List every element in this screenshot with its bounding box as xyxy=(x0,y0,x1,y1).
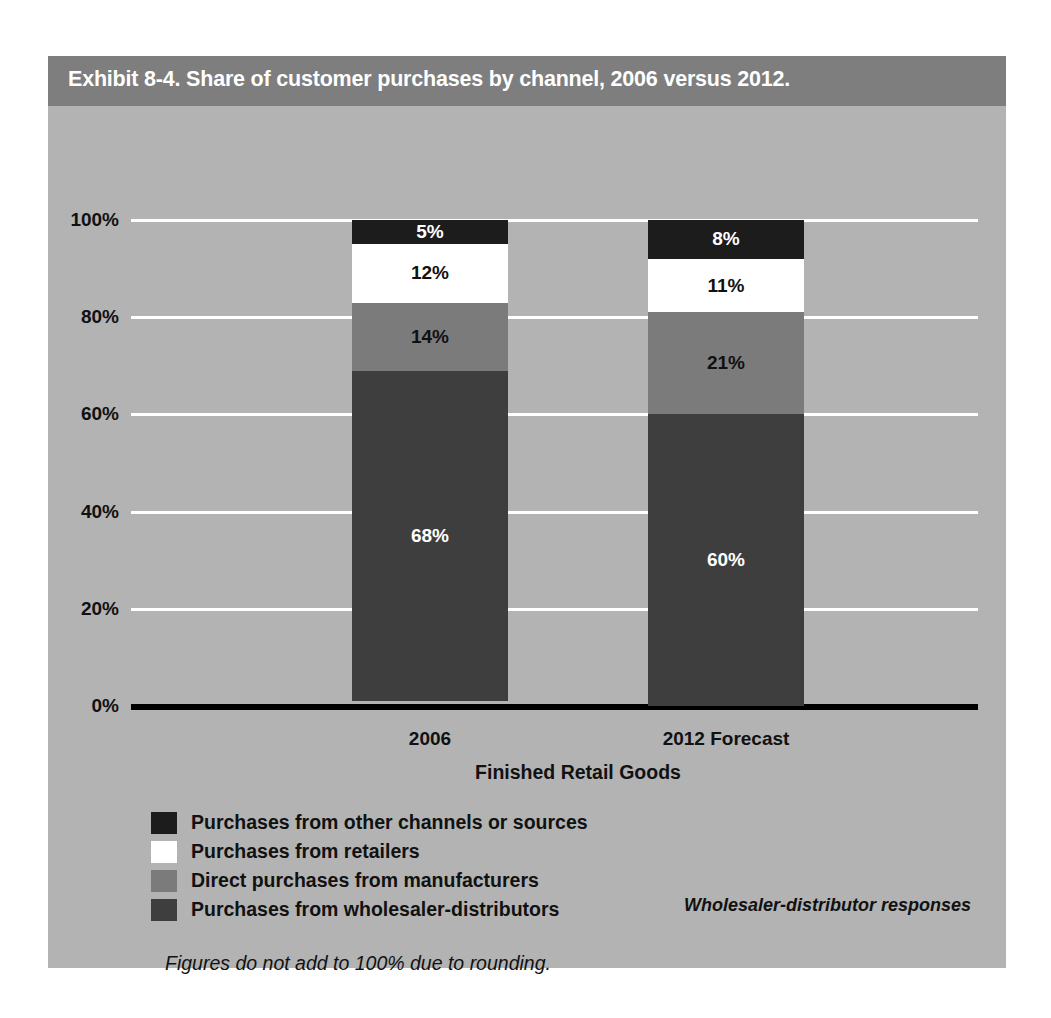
category-label: 2006 xyxy=(409,728,451,750)
legend-item[interactable]: Purchases from retailers xyxy=(151,837,971,866)
bar-segment[interactable]: 12% xyxy=(352,244,508,302)
x-axis-line xyxy=(131,704,978,710)
bar-segment-value-label: 12% xyxy=(411,262,449,284)
bar-segment[interactable]: 11% xyxy=(648,259,804,312)
y-axis-tick-label: 60% xyxy=(33,403,119,425)
legend-swatch xyxy=(151,899,177,921)
chart-legend: Purchases from other channels or sources… xyxy=(151,808,971,924)
source-note: Wholesaler-distributor responses xyxy=(684,895,971,916)
bar-segment[interactable]: 5% xyxy=(352,220,508,244)
footnote: Figures do not add to 100% due to roundi… xyxy=(165,952,551,975)
exhibit-title-bar: Exhibit 8-4. Share of customer purchases… xyxy=(48,56,1006,106)
legend-item[interactable]: Direct purchases from manufacturers xyxy=(151,866,971,895)
bar-segment-value-label: 8% xyxy=(712,228,739,250)
legend-swatch xyxy=(151,812,177,834)
bar-segment-value-label: 11% xyxy=(708,275,745,297)
exhibit-card: Exhibit 8-4. Share of customer purchases… xyxy=(48,56,1006,968)
page-root: Exhibit 8-4. Share of customer purchases… xyxy=(0,0,1051,1018)
bar-segment-value-label: 21% xyxy=(707,352,745,374)
bar-segment-value-label: 5% xyxy=(416,221,443,243)
plot-area: 0%20%40%60%80%100%5%12%14%68%8%11%21%60% xyxy=(131,220,978,706)
legend-swatch xyxy=(151,870,177,892)
gridline xyxy=(131,608,978,611)
y-axis-tick-label: 0% xyxy=(33,695,119,717)
bar-segment-value-label: 60% xyxy=(707,549,745,571)
x-axis-title: Finished Retail Goods xyxy=(475,761,681,784)
y-axis-tick-label: 100% xyxy=(33,209,119,231)
bar-segment-value-label: 68% xyxy=(411,525,449,547)
bar-stack[interactable]: 5%12%14%68% xyxy=(352,220,508,706)
legend-label: Purchases from other channels or sources xyxy=(191,811,588,834)
y-axis-tick-label: 80% xyxy=(33,306,119,328)
bar-segment[interactable]: 68% xyxy=(352,371,508,701)
gridline xyxy=(131,511,978,514)
gridline xyxy=(131,413,978,416)
y-axis-tick-label: 40% xyxy=(33,501,119,523)
bar-segment[interactable]: 14% xyxy=(352,303,508,371)
chart-area: 0%20%40%60%80%100%5%12%14%68%8%11%21%60%… xyxy=(48,106,1006,968)
bar-segment[interactable]: 60% xyxy=(648,414,804,706)
legend-label: Purchases from wholesaler-distributors xyxy=(191,898,559,921)
exhibit-title: Exhibit 8-4. Share of customer purchases… xyxy=(68,67,790,92)
bar-segment-value-label: 14% xyxy=(411,326,449,348)
gridline xyxy=(131,316,978,319)
category-label: 2012 Forecast xyxy=(663,728,790,750)
bar-stack[interactable]: 8%11%21%60% xyxy=(648,220,804,706)
gridline xyxy=(131,219,978,222)
bar-segment[interactable]: 8% xyxy=(648,220,804,259)
bar-segment[interactable]: 21% xyxy=(648,312,804,414)
legend-swatch xyxy=(151,841,177,863)
y-axis-tick-label: 20% xyxy=(33,598,119,620)
legend-label: Direct purchases from manufacturers xyxy=(191,869,539,892)
legend-label: Purchases from retailers xyxy=(191,840,420,863)
legend-item[interactable]: Purchases from other channels or sources xyxy=(151,808,971,837)
